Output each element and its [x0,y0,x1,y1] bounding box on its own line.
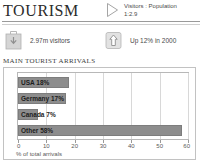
x-axis-tick-label: 10 [43,143,50,149]
suitcase-icon [3,29,24,51]
x-axis-tick-label: 20 [71,143,78,149]
visitors-population-ratio: Visitors : Population 1:2.9 [106,2,177,18]
triangle-right-icon [106,2,119,18]
bar-row: USA 18% [18,77,188,88]
bar-label: USA 18% [21,77,49,88]
x-axis-tick-label: 30 [100,143,107,149]
header-divider [2,21,200,22]
bar-label: Canada 7% [21,109,56,120]
bar-label: Other 58% [21,125,53,136]
gridline [188,73,189,139]
x-axis-tick-label: 40 [128,143,135,149]
x-axis-tick-label: 0 [17,143,20,149]
page-title: TOURISM [0,0,79,20]
plot-area: USA 18%Germany 17%Canada 7%Other 58% [17,72,189,140]
x-axis-tick-label: 50 [156,143,163,149]
stat-visitors-text: 2.97m visitors [30,37,70,44]
x-axis-label: % of total arrivals [16,151,62,157]
ratio-label: Visitors : Population [124,3,177,11]
bar-row: Canada 7% [18,109,188,120]
stat-growth-text: Up 12% in 2000 [130,37,176,44]
stats-row: 2.97m visitors Up 12% in 2000 [0,29,204,55]
up-arrow-box-icon [103,29,124,51]
x-axis-tick-label: 60 [183,143,190,149]
ratio-value: 1:2.9 [124,11,177,19]
chart-title: MAIN TOURIST ARRIVALS [3,57,95,65]
stat-visitors: 2.97m visitors [3,29,70,51]
chart-panel: USA 18%Germany 17%Canada 7%Other 58% 010… [3,67,196,160]
bar-row: Other 58% [18,125,188,136]
bar-label: Germany 17% [21,93,64,104]
header-divider-secondary [2,24,200,25]
bar-row: Germany 17% [18,93,188,104]
header: TOURISM Visitors : Population 1:2.9 [0,0,204,26]
stat-growth: Up 12% in 2000 [103,29,176,51]
bar-series: USA 18%Germany 17%Canada 7%Other 58% [18,73,188,139]
x-axis: 0102030405060 % of total arrivals [17,140,189,160]
